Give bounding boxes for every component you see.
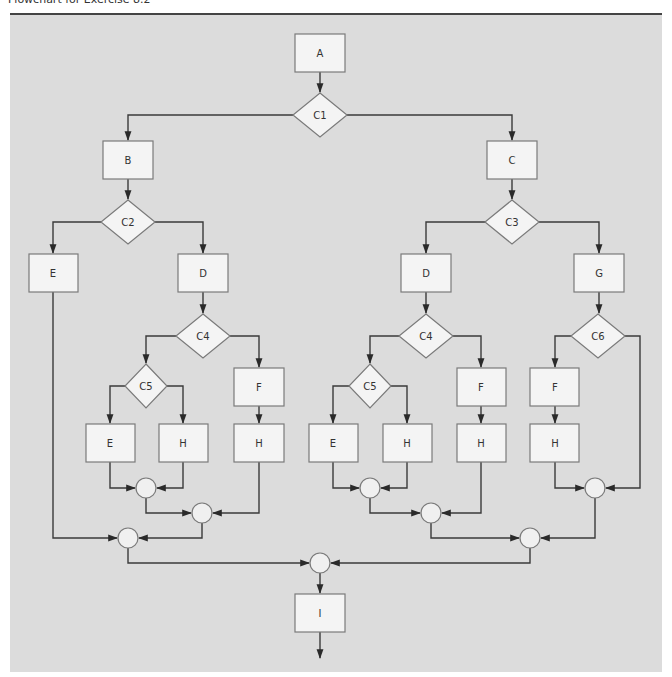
node-b: B xyxy=(103,141,153,179)
edge-c4-f-left xyxy=(230,336,259,367)
node-f-mid-label: F xyxy=(478,382,484,393)
edge-e-j1-mid xyxy=(333,462,359,488)
edge-c5-h-mid xyxy=(391,386,407,423)
edge-c5-e-left xyxy=(110,386,125,423)
node-b-label: B xyxy=(125,155,132,166)
node-h-left1-label: H xyxy=(179,438,187,449)
node-c-label: C xyxy=(509,155,516,166)
node-f-mid: F xyxy=(457,368,506,406)
node-h-right: H xyxy=(530,424,579,462)
edge-j1-j2-left xyxy=(146,498,191,513)
edge-c5-e-mid xyxy=(333,386,349,423)
node-e-left2-label: E xyxy=(107,438,113,449)
node-c: C xyxy=(487,141,537,179)
junction-mid-2 xyxy=(421,503,441,523)
node-c5-mid: C5 xyxy=(349,364,391,408)
node-a: A xyxy=(295,34,345,72)
edge-c4-f-mid xyxy=(453,336,481,367)
junction-mid-1 xyxy=(360,478,380,498)
edge-right-final xyxy=(331,548,530,563)
node-d-left-label: D xyxy=(199,268,207,279)
junction-left-3 xyxy=(118,528,138,548)
edge-c6-bypass xyxy=(606,336,640,488)
node-h-left2-label: H xyxy=(255,438,263,449)
node-c1: C1 xyxy=(293,93,347,137)
node-e-left-label: E xyxy=(50,268,56,279)
node-e-left: E xyxy=(29,254,78,292)
node-h-mid1: H xyxy=(383,424,432,462)
edge-e-j3-left xyxy=(53,292,117,538)
node-h-mid2-label: H xyxy=(477,438,485,449)
node-c3-label: C3 xyxy=(505,217,518,228)
node-h-left2: H xyxy=(234,424,284,462)
edge-c5-h-left xyxy=(167,386,183,423)
junction-right-1 xyxy=(585,478,605,498)
node-f-left-label: F xyxy=(256,382,262,393)
node-d-mid: D xyxy=(401,254,451,292)
node-h-mid1-label: H xyxy=(403,438,411,449)
node-c4-mid-label: C4 xyxy=(419,331,432,342)
node-d-left: D xyxy=(178,254,228,292)
node-d-mid-label: D xyxy=(422,268,430,279)
node-a-label: A xyxy=(317,48,324,59)
node-c5-left-label: C5 xyxy=(139,381,152,392)
node-f-right: F xyxy=(530,368,579,406)
node-h-left1: H xyxy=(159,424,208,462)
node-h-mid2: H xyxy=(457,424,506,462)
node-g-label: G xyxy=(595,268,603,279)
edge-c1-c xyxy=(347,115,512,140)
junction-final xyxy=(310,553,330,573)
node-i-label: I xyxy=(319,608,322,619)
node-f-left: F xyxy=(234,368,284,406)
edge-j2-j3-left xyxy=(139,523,202,538)
node-c6-label: C6 xyxy=(591,331,604,342)
edge-h-j1-left xyxy=(157,462,183,488)
node-e-left2: E xyxy=(86,424,135,462)
edge-c4-c5-mid xyxy=(370,336,399,363)
node-c6: C6 xyxy=(571,314,625,358)
junction-right-2 xyxy=(520,528,540,548)
edge-j1-j2-right xyxy=(541,498,595,538)
edge-c2-d xyxy=(155,222,203,253)
edge-h-j1-right xyxy=(555,462,584,488)
edge-left-final xyxy=(128,548,309,563)
edge-j2mid-j2right xyxy=(431,523,519,538)
node-c2: C2 xyxy=(101,200,155,244)
edge-c6-f xyxy=(555,336,571,367)
node-c3: C3 xyxy=(485,200,539,244)
node-c5-left: C5 xyxy=(125,364,167,408)
node-c4-left-label: C4 xyxy=(196,331,209,342)
node-g: G xyxy=(574,254,624,292)
node-c4-mid: C4 xyxy=(399,314,453,358)
junction-left-1 xyxy=(136,478,156,498)
edge-h-j2-mid xyxy=(442,462,481,513)
edge-c1-b xyxy=(128,115,293,140)
flowchart: A C1 B C C2 C3 E D D G C4 C4 xyxy=(0,0,672,677)
edge-c4-c5-left xyxy=(146,336,176,363)
edge-c3-d xyxy=(426,222,485,253)
edge-h-j1-mid xyxy=(381,462,407,488)
edge-e-j1-left xyxy=(110,462,135,488)
edge-j1-j2-mid xyxy=(370,498,420,513)
node-h-right-label: H xyxy=(551,438,559,449)
node-c2-label: C2 xyxy=(121,217,134,228)
edge-c2-e xyxy=(53,222,101,253)
node-f-right-label: F xyxy=(552,382,558,393)
node-e-mid-label: E xyxy=(330,438,336,449)
node-c5-mid-label: C5 xyxy=(363,381,376,392)
node-i: I xyxy=(295,594,345,632)
edge-c3-g xyxy=(539,222,599,253)
junction-left-2 xyxy=(192,503,212,523)
node-e-mid: E xyxy=(309,424,358,462)
node-c4-left: C4 xyxy=(176,314,230,358)
edge-h-j2-left xyxy=(213,462,259,513)
node-c1-label: C1 xyxy=(313,110,326,121)
